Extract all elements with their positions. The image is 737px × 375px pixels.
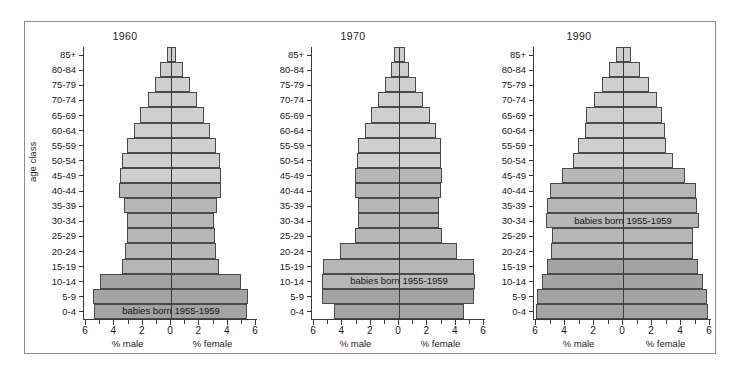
y-axis-1990: 85+80-8475-7970-7465-6960-6455-5950-5445… [533,47,534,319]
x-tick-minor [441,320,442,324]
bar-male [127,138,171,153]
y-tick-label: 40-44 [280,186,304,195]
x-tick-minor [695,320,696,324]
y-tick-label: 55-59 [52,141,76,150]
x-tick-minor [550,320,551,324]
bar-female [623,289,707,304]
y-tick [307,221,311,222]
x-tick-minor [412,320,413,324]
baby-boom-annotation: babies born 1955-1959 [350,276,448,286]
y-tick [529,85,533,86]
y-tick-label: 20-24 [280,247,304,256]
y-tick [79,296,83,297]
bar-female [399,123,436,138]
y-tick-label: 45-49 [502,171,526,180]
y-tick-label: 60-64 [502,126,526,135]
baby-boom-annotation: babies born 1955-1959 [574,216,672,226]
bar-male [358,198,399,213]
x-tick-minor [184,320,185,324]
y-tick [307,85,311,86]
bar-male [355,183,399,198]
y-tick [307,251,311,252]
bar-male [378,92,399,107]
x-tick-label: 0 [619,326,625,336]
y-tick-label: 80-84 [280,65,304,74]
y-tick [529,160,533,161]
y-tick [79,221,83,222]
bar-female [399,289,474,304]
y-tick [307,191,311,192]
bar-female [623,183,696,198]
bar-female [171,47,176,62]
bar-male [594,92,623,107]
y-tick [307,296,311,297]
bar-female [399,213,439,228]
x-axis-caption-male: % male [112,338,144,349]
bar-female [399,228,442,243]
bar-male [322,289,399,304]
bar-male [578,138,623,153]
bar-female [623,228,693,243]
zero-line-1990 [623,47,624,319]
y-tick-label: 0-4 [62,307,76,316]
bar-male [140,107,171,122]
bar-male [536,304,623,319]
bar-male [323,259,399,274]
x-tick-label: 2 [139,326,145,336]
bar-female [399,168,442,183]
x-tick-label: 2 [367,326,373,336]
x-tick-minor [608,320,609,324]
bar-female [171,213,214,228]
y-tick [79,160,83,161]
x-tick-minor [384,320,385,324]
y-tick-label: 40-44 [502,186,526,195]
y-axis-1970: 85+80-8475-7970-7465-6960-6455-5950-5445… [311,47,312,319]
y-tick [529,251,533,252]
bar-male [122,259,171,274]
bar-male [355,168,399,183]
bar-male [585,123,623,138]
y-tick [79,206,83,207]
bar-male [340,243,399,258]
y-tick-label: 65-69 [280,111,304,120]
y-tick-label: 85+ [510,50,526,59]
y-tick-label: 15-19 [502,262,526,271]
x-tick-label: 4 [452,326,458,336]
y-tick-label: 70-74 [52,95,76,104]
bar-male [357,153,399,168]
bar-male [552,228,623,243]
y-tick [529,130,533,131]
bar-female [399,243,457,258]
y-tick-label: 25-29 [280,231,304,240]
y-tick [529,115,533,116]
y-tick-label: 25-29 [52,231,76,240]
x-tick-label: 6 [706,326,712,336]
panel-title-1960: 1960 [2,30,248,42]
y-tick-label: 65-69 [52,111,76,120]
x-tick-label: 6 [82,326,88,336]
y-tick [79,281,83,282]
y-tick-label: 35-39 [502,201,526,210]
x-axis-1960: 6420246 [83,319,257,320]
x-tick-minor [637,320,638,324]
x-tick-label: 4 [561,326,567,336]
y-tick [79,266,83,267]
bar-female [171,259,219,274]
x-axis-caption-male: % male [563,338,595,349]
y-tick [529,206,533,207]
bar-male [547,259,623,274]
x-tick-label: 0 [167,326,173,336]
figure-frame: age class 1960 babies born 1955-1959 85+… [24,21,716,354]
bar-male [355,228,399,243]
bar-female [171,123,210,138]
x-tick-label: 0 [395,326,401,336]
x-tick-minor [356,320,357,324]
bar-female [623,92,657,107]
bar-male [371,107,399,122]
x-tick-label: 6 [532,326,538,336]
panel-title-1990: 1990 [454,30,704,42]
bar-male [124,198,171,213]
plot-area-1960: babies born 1955-1959 [85,47,257,319]
bar-female [623,107,662,122]
y-tick [529,70,533,71]
